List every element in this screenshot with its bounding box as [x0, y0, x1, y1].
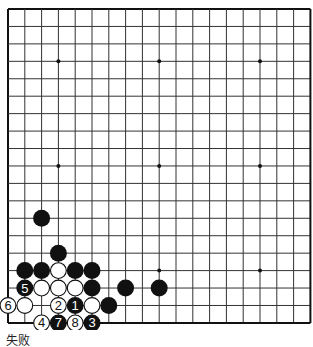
- black-stone: [67, 262, 84, 279]
- white-stone: 8: [67, 315, 83, 330]
- star-point: [157, 164, 161, 168]
- diagram-caption: 失败: [6, 331, 30, 347]
- move-number: 6: [4, 298, 11, 313]
- black-stone: [84, 262, 101, 279]
- white-stone: [51, 280, 67, 296]
- black-stone: [33, 262, 50, 279]
- black-stone: 1: [67, 297, 84, 314]
- star-point: [258, 59, 262, 63]
- black-stone: [50, 245, 67, 262]
- move-number: 3: [88, 315, 95, 330]
- go-board: 56214783: [0, 0, 313, 330]
- move-number: 1: [72, 298, 79, 313]
- black-stone: 5: [16, 280, 33, 297]
- white-stone: [51, 263, 67, 279]
- move-number: 7: [55, 315, 62, 330]
- black-stone: 3: [84, 314, 101, 330]
- star-point: [157, 269, 161, 273]
- move-number: 8: [72, 315, 79, 330]
- black-stone: [33, 210, 50, 227]
- move-number: 5: [21, 281, 28, 296]
- black-stone: [151, 280, 168, 297]
- white-stone: [67, 280, 83, 296]
- star-point: [157, 59, 161, 63]
- white-stone: [17, 298, 33, 314]
- white-stone: 6: [0, 298, 16, 314]
- move-number: 2: [55, 298, 62, 313]
- black-stone: [100, 297, 117, 314]
- star-point: [56, 59, 60, 63]
- white-stone: 2: [51, 298, 67, 314]
- star-point: [258, 269, 262, 273]
- black-stone: [117, 280, 134, 297]
- star-point: [56, 164, 60, 168]
- black-stone: [84, 280, 101, 297]
- black-stone: [16, 262, 33, 279]
- white-stone: [84, 298, 100, 314]
- black-stone: 7: [50, 314, 67, 330]
- white-stone: 4: [34, 315, 50, 330]
- move-number: 4: [38, 315, 45, 330]
- white-stone: [34, 280, 50, 296]
- star-point: [258, 164, 262, 168]
